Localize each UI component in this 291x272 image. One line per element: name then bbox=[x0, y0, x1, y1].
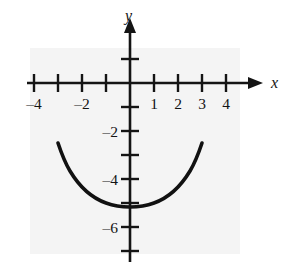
y-tick-label--6: –6 bbox=[90, 220, 118, 236]
x-tick-label--2: –2 bbox=[68, 96, 96, 112]
x-axis-arrowhead bbox=[248, 77, 263, 89]
y-axis-label: y bbox=[125, 8, 132, 24]
y-tick-label--2: –2 bbox=[90, 124, 118, 140]
x-axis-label: x bbox=[271, 75, 278, 91]
coordinate-plane bbox=[0, 0, 291, 272]
x-tick-label-3: 3 bbox=[194, 96, 210, 112]
x-tick-label--4: –4 bbox=[20, 96, 48, 112]
x-tick-label-2: 2 bbox=[170, 96, 186, 112]
x-tick-label-1: 1 bbox=[146, 96, 162, 112]
y-tick-label--4: –4 bbox=[90, 172, 118, 188]
x-tick-label-4: 4 bbox=[218, 96, 234, 112]
graph-figure: –4 –2 1 2 3 4 –2 –4 –6 x y bbox=[0, 0, 291, 272]
